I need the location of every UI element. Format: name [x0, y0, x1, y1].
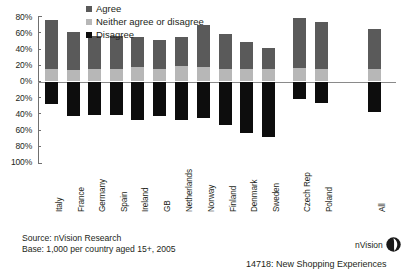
footer-notes: Source: nVision Research Base: 1,000 per…: [22, 233, 176, 255]
y-axis-tick: [38, 97, 41, 98]
chart-legend: Agree Neither agree or disagree Disagree: [86, 3, 204, 42]
x-axis-category-label: Sweden: [272, 183, 281, 212]
x-axis-category-label: Czech Rep: [303, 172, 312, 212]
y-axis-tick-label: 20%: [0, 94, 32, 103]
y-axis-tick-label: 0%: [0, 77, 32, 86]
bar-segment-agree: [262, 48, 275, 69]
legend-swatch-icon: [86, 32, 92, 38]
legend-item-neither: Neither agree or disagree: [86, 16, 204, 28]
y-axis-tick-label: 40%: [0, 110, 32, 119]
y-axis-tick: [38, 146, 41, 147]
bar-segment-disagree: [315, 82, 328, 103]
x-axis-category-label: France: [77, 187, 86, 212]
bar-segment-agree: [315, 22, 328, 69]
y-axis-tick: [38, 49, 41, 50]
bar-segment-disagree: [131, 82, 144, 121]
bar-segment-disagree: [153, 82, 166, 116]
bar-segment-neither: [197, 67, 210, 82]
bar-segment-disagree: [45, 82, 58, 105]
bar-segment-agree: [153, 40, 166, 69]
y-axis-tick-label: 60%: [0, 126, 32, 135]
source-note: Source: nVision Research: [22, 233, 176, 244]
bar-segment-agree: [368, 29, 381, 69]
x-axis-category-label: Poland: [325, 187, 334, 212]
slide-id-title: 14718: New Shopping Experiences: [246, 259, 387, 269]
bar-segment-neither: [110, 69, 123, 81]
bar-segment-neither: [67, 70, 80, 81]
y-axis-tick: [38, 32, 41, 33]
x-axis-category-label: Finland: [229, 186, 238, 212]
bar-poland: [315, 0, 328, 170]
legend-label: Neither agree or disagree: [96, 17, 204, 27]
legend-item-disagree: Disagree: [86, 29, 204, 41]
bar-segment-neither: [175, 66, 188, 81]
chart-page: 80% 60% 40% 20% 0% 20% 40% 60% 80% 100% …: [0, 0, 419, 277]
x-axis-category-label: Ireland: [141, 188, 150, 212]
legend-item-agree: Agree: [86, 3, 204, 15]
y-axis-tick-label: 100%: [0, 158, 32, 167]
bar-segment-neither: [131, 67, 144, 82]
x-axis-category-label: Spain: [120, 192, 129, 212]
bar-segment-disagree: [293, 82, 306, 100]
bar-segment-disagree: [262, 82, 275, 137]
x-axis-category-label: Germany: [98, 179, 107, 212]
nvision-logo: nVision: [355, 236, 402, 253]
legend-label: Agree: [96, 4, 121, 14]
bar-segment-agree: [293, 18, 306, 68]
bar-segment-agree: [45, 20, 58, 69]
x-axis-category-label: GB: [163, 200, 172, 212]
y-axis-tick: [38, 65, 41, 66]
bar-segment-disagree: [197, 82, 210, 118]
bar-segment-disagree: [110, 82, 123, 115]
x-axis-category-label: Norway: [207, 185, 216, 212]
legend-swatch-icon: [86, 6, 92, 12]
y-axis-line: [38, 16, 42, 164]
bar-segment-neither: [293, 68, 306, 82]
bar-segment-neither: [368, 69, 381, 82]
bar-all: [368, 0, 381, 170]
y-axis-tick-label: 80%: [0, 142, 32, 151]
bar-segment-disagree: [219, 82, 232, 126]
bar-segment-neither: [45, 69, 58, 82]
bar-segment-neither: [240, 69, 253, 81]
y-axis-tick-label: 40%: [0, 45, 32, 54]
bar-czech-rep: [293, 0, 306, 170]
y-axis-tick-label: 60%: [0, 29, 32, 38]
x-axis-category-label: All: [378, 203, 387, 212]
bar-segment-disagree: [240, 82, 253, 133]
bar-denmark: [240, 0, 253, 170]
legend-label: Disagree: [96, 30, 134, 40]
y-axis-tick: [38, 130, 41, 131]
nvision-leaf-logo-icon: [385, 236, 402, 253]
legend-swatch-icon: [86, 19, 92, 25]
bar-france: [67, 0, 80, 170]
bar-sweden: [262, 0, 275, 170]
bar-segment-agree: [219, 34, 232, 70]
bar-segment-disagree: [88, 82, 101, 115]
bar-segment-neither: [219, 69, 232, 81]
bar-segment-neither: [262, 69, 275, 81]
x-axis-category-label: Italy: [55, 197, 64, 212]
bar-segment-disagree: [368, 82, 381, 113]
bar-finland: [219, 0, 232, 170]
x-axis-category-label: Netherlands: [185, 169, 194, 212]
base-note: Base: 1,000 per country aged 15+, 2005: [22, 244, 176, 255]
bar-segment-neither: [315, 69, 328, 82]
y-axis-tick-label: 20%: [0, 61, 32, 70]
bar-segment-agree: [240, 42, 253, 70]
bar-segment-neither: [153, 69, 166, 81]
bar-segment-disagree: [67, 82, 80, 116]
x-axis-category-label: Denmark: [250, 179, 259, 212]
logo-text: nVision: [355, 240, 383, 250]
bar-italy: [45, 0, 58, 170]
y-axis-tick-label: 80%: [0, 13, 32, 22]
bar-segment-disagree: [175, 82, 188, 120]
bar-segment-neither: [88, 69, 101, 81]
y-axis-tick: [38, 113, 41, 114]
bar-segment-agree: [67, 32, 80, 70]
